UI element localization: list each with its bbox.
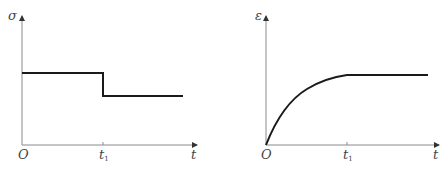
stress-step-curve bbox=[22, 73, 183, 96]
strain-t1-subscript: 1 bbox=[348, 155, 352, 163]
stress-t1-label: t1 bbox=[99, 147, 109, 163]
stress-t1-subscript: 1 bbox=[104, 155, 108, 163]
strain-panel: ε O t1 t bbox=[255, 8, 439, 163]
strain-x-label: t bbox=[433, 147, 439, 162]
stress-y-label: σ bbox=[8, 8, 18, 23]
diagram-canvas: σ O t1 t ε O t1 t bbox=[0, 0, 446, 169]
stress-origin-label: O bbox=[18, 147, 29, 162]
strain-origin-label: O bbox=[261, 147, 272, 162]
strain-y-label: ε bbox=[255, 8, 262, 23]
strain-creep-curve bbox=[266, 75, 428, 145]
strain-t1-label: t1 bbox=[343, 147, 353, 163]
stress-x-label: t bbox=[191, 147, 197, 162]
stress-panel: σ O t1 t bbox=[8, 8, 197, 163]
